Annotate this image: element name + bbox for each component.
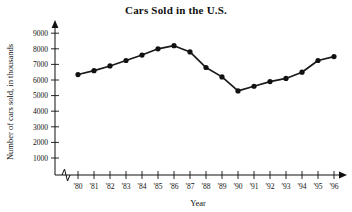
x-tick-label: '87 xyxy=(186,182,195,191)
x-tick-label: '82 xyxy=(106,182,115,191)
data-point-marker xyxy=(299,70,304,75)
data-point-marker xyxy=(155,46,160,51)
y-tick-label: 2000 xyxy=(33,138,48,147)
data-point-marker xyxy=(283,76,288,81)
y-tick-label: 4000 xyxy=(33,107,48,116)
x-axis xyxy=(55,169,347,181)
x-tick-label: '95 xyxy=(314,182,323,191)
data-point-marker xyxy=(315,58,320,63)
y-axis-arrow-icon xyxy=(52,20,59,28)
x-tick-label: '80 xyxy=(74,182,83,191)
data-point-marker xyxy=(107,63,112,68)
x-axis-arrow-icon xyxy=(339,172,347,179)
y-tick-label: 3000 xyxy=(33,123,48,132)
data-point-marker xyxy=(139,52,144,57)
data-point-marker xyxy=(91,68,96,73)
y-tick-label: 5000 xyxy=(33,91,48,100)
data-point-group xyxy=(75,43,336,93)
chart-container: Cars Sold in the U.S. 100020003000400050… xyxy=(0,0,352,212)
x-tick-label: '85 xyxy=(154,182,163,191)
x-tick-label: '91 xyxy=(250,182,259,191)
data-point-marker xyxy=(123,58,128,63)
x-tick-label: '94 xyxy=(298,182,307,191)
y-axis xyxy=(52,20,59,175)
y-axis-title: Number of cars sold, in thousands xyxy=(5,44,15,160)
y-tick-label: 7000 xyxy=(33,60,48,69)
x-tick-label: '89 xyxy=(218,182,227,191)
data-point-marker xyxy=(235,88,240,93)
y-tick-label-group: 100020003000400050006000700080009000 xyxy=(33,29,48,163)
x-tick-label: '93 xyxy=(282,182,291,191)
y-tick-label: 6000 xyxy=(33,76,48,85)
line-chart-plot: 100020003000400050006000700080009000 '80… xyxy=(0,0,352,212)
y-tick-label: 1000 xyxy=(33,154,48,163)
x-tick-label: '90 xyxy=(234,182,243,191)
x-tick-label: '83 xyxy=(122,182,131,191)
data-point-marker xyxy=(171,43,176,48)
data-point-marker xyxy=(331,54,336,59)
y-tick-label: 8000 xyxy=(33,45,48,54)
data-point-marker xyxy=(75,72,80,77)
x-tick-label-group: '80'81'82'83'84'85'86'87'88'89'90'91'92'… xyxy=(74,182,339,191)
x-tick-label: '84 xyxy=(138,182,147,191)
x-axis-title: Year xyxy=(190,198,206,208)
data-point-marker xyxy=(187,49,192,54)
data-point-marker xyxy=(219,74,224,79)
data-point-marker xyxy=(203,65,208,70)
x-tick-label: '88 xyxy=(202,182,211,191)
x-tick-label: '92 xyxy=(266,182,275,191)
x-tick-label: '86 xyxy=(170,182,179,191)
data-point-marker xyxy=(251,84,256,89)
y-tick-label: 9000 xyxy=(33,29,48,38)
x-tick-label: '96 xyxy=(330,182,339,191)
data-point-marker xyxy=(267,79,272,84)
x-tick-label: '81 xyxy=(90,182,99,191)
